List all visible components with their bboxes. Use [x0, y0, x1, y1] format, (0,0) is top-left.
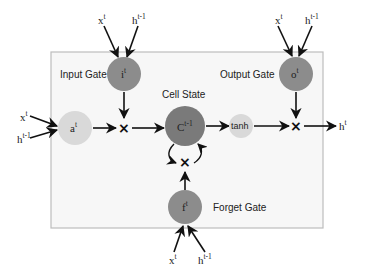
- forget-gate-inputs: xt ht-1: [169, 226, 212, 266]
- output-gate-label: Output Gate: [220, 69, 275, 80]
- output-gate-x-label: xt: [275, 12, 284, 26]
- output-gate-h-label: ht-1: [305, 12, 319, 26]
- cell-state-label: Cell State: [162, 89, 206, 100]
- input-gate-x-label: xt: [98, 12, 107, 26]
- forget-multiply: ×: [179, 154, 191, 170]
- forget-gate-x-label: xt: [169, 252, 178, 266]
- candidate-h-label: ht-1: [17, 131, 31, 145]
- input-multiply: ×: [118, 120, 130, 136]
- input-gate-inputs: xt ht-1: [98, 12, 146, 57]
- output-h-label: ht: [339, 118, 348, 132]
- lstm-diagram: xt ht-1 it Input Gate xt ht-1 at × Cell …: [0, 0, 365, 275]
- output-gate-inputs: xt ht-1: [275, 12, 319, 56]
- candidate-x-label: xt: [20, 109, 29, 123]
- forget-gate-h-label: ht-1: [198, 252, 212, 266]
- output-multiply: ×: [290, 118, 302, 134]
- input-gate-h-label: ht-1: [132, 12, 146, 26]
- tanh-label: tanh: [231, 121, 249, 131]
- forget-gate-label: Forget Gate: [213, 202, 267, 213]
- input-gate-label: Input Gate: [60, 69, 107, 80]
